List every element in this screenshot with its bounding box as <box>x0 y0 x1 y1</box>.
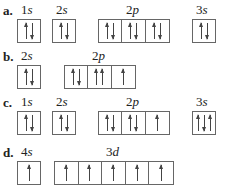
spin-up-arrow-icon <box>161 165 162 181</box>
spin-up-arrow-icon <box>107 23 108 39</box>
option-label: b. <box>3 49 13 65</box>
spin-down-arrow-icon <box>67 115 68 131</box>
orbital-box <box>64 65 136 89</box>
orbital-cell <box>112 66 135 88</box>
orbital-cell <box>79 162 103 184</box>
orbital-cell <box>146 20 169 42</box>
orbital-label: 2p <box>92 48 105 64</box>
spin-down-arrow-icon <box>136 23 137 39</box>
orbital-label: 1s <box>21 2 33 18</box>
orbital-box <box>17 19 41 43</box>
orbital-cell <box>149 162 173 184</box>
spin-down-arrow-icon <box>32 69 33 85</box>
spin-up-arrow-icon <box>61 115 62 131</box>
orbital-box <box>52 19 76 43</box>
spin-up-arrow-icon <box>130 115 131 131</box>
orbital-box <box>17 161 41 185</box>
orbital-cell <box>193 112 215 134</box>
orbital-cell <box>126 162 150 184</box>
spin-down-arrow-icon <box>160 23 161 39</box>
spin-down-arrow-icon <box>204 115 205 131</box>
orbital-cell <box>146 112 169 134</box>
spin-up-arrow-icon <box>26 69 27 85</box>
spin-up-arrow-icon <box>102 69 103 85</box>
orbital-label: 4s <box>21 144 33 160</box>
spin-up-arrow-icon <box>201 23 202 39</box>
orbital-cell <box>55 162 79 184</box>
spin-up-arrow-icon <box>113 165 114 181</box>
spin-down-arrow-icon <box>207 23 208 39</box>
orbital-box <box>192 111 216 135</box>
orbital-label: 2p <box>126 94 139 110</box>
orbital-box <box>52 111 76 135</box>
spin-up-arrow-icon <box>107 115 108 131</box>
spin-down-arrow-icon <box>32 23 33 39</box>
orbital-cell <box>18 20 40 42</box>
orbital-label: 3s <box>196 94 208 110</box>
spin-up-arrow-icon <box>26 115 27 131</box>
spin-up-arrow-icon <box>73 69 74 85</box>
orbital-label: 2p <box>126 2 139 18</box>
spin-down-arrow-icon <box>32 115 33 131</box>
orbital-cell <box>99 20 122 42</box>
spin-up-arrow-icon <box>66 165 67 181</box>
orbital-box <box>192 19 216 43</box>
orbital-cell <box>88 66 111 88</box>
spin-up-arrow-icon <box>210 115 211 131</box>
spin-up-arrow-icon <box>157 115 158 131</box>
orbital-cell <box>53 20 75 42</box>
orbital-label: 2s <box>56 2 68 18</box>
spin-down-arrow-icon <box>113 115 114 131</box>
orbital-cell <box>102 162 126 184</box>
spin-up-arrow-icon <box>96 69 97 85</box>
orbital-box <box>17 111 41 135</box>
spin-up-arrow-icon <box>26 23 27 39</box>
option-label: c. <box>3 95 12 111</box>
orbital-cell <box>18 112 40 134</box>
orbital-box <box>17 65 41 89</box>
spin-up-arrow-icon <box>130 23 131 39</box>
spin-down-arrow-icon <box>67 23 68 39</box>
spin-down-arrow-icon <box>113 23 114 39</box>
spin-up-arrow-icon <box>198 115 199 131</box>
orbital-cell <box>122 112 145 134</box>
option-label: d. <box>3 145 13 161</box>
option-label: a. <box>3 3 13 19</box>
orbital-label: 1s <box>21 94 33 110</box>
orbital-label: 3s <box>196 2 208 18</box>
orbital-cell <box>53 112 75 134</box>
orbital-cell <box>99 112 122 134</box>
spin-up-arrow-icon <box>137 165 138 181</box>
orbital-label: 2s <box>56 94 68 110</box>
orbital-label: 2s <box>21 48 33 64</box>
orbital-cell <box>122 20 145 42</box>
orbital-label: 3d <box>106 144 119 160</box>
spin-up-arrow-icon <box>154 23 155 39</box>
spin-up-arrow-icon <box>29 165 30 181</box>
orbital-box <box>54 161 174 185</box>
orbital-cell <box>193 20 215 42</box>
spin-up-arrow-icon <box>123 69 124 85</box>
spin-down-arrow-icon <box>136 115 137 131</box>
orbital-cell <box>65 66 88 88</box>
spin-up-arrow-icon <box>61 23 62 39</box>
orbital-cell <box>18 66 40 88</box>
orbital-box <box>98 19 170 43</box>
orbital-box <box>98 111 170 135</box>
spin-up-arrow-icon <box>89 165 90 181</box>
orbital-cell <box>18 162 40 184</box>
spin-down-arrow-icon <box>79 69 80 85</box>
